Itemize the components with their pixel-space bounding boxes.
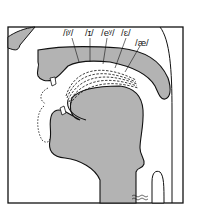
larynx-tissue <box>152 171 164 203</box>
label-ih: /ɪ/ <box>85 27 94 38</box>
label-eh: /ɛ/ <box>121 27 131 38</box>
label-iy: /iʸ/ <box>63 27 74 38</box>
vocal-tract-diagram: /iʸ/ /ɪ/ /eʸ/ /ɛ/ /æ/ <box>0 0 201 212</box>
label-ey: /eʸ/ <box>101 27 115 38</box>
label-ae: /æ/ <box>135 37 149 48</box>
